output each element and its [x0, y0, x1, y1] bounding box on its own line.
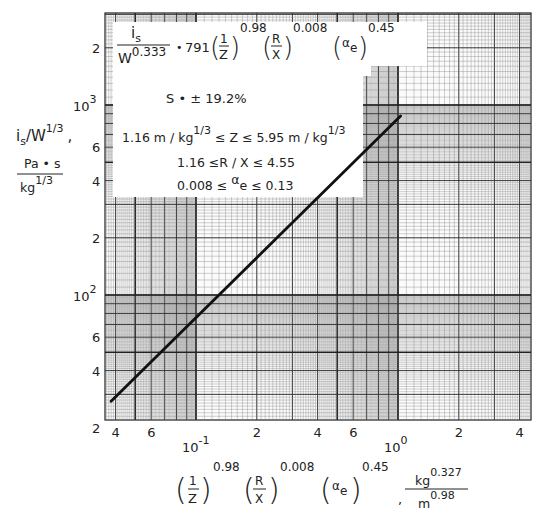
svg-text:Z: Z	[188, 491, 197, 506]
y-tick-label: 6	[92, 140, 100, 155]
x-tick-label: 4	[314, 425, 322, 440]
svg-text:): )	[200, 472, 212, 507]
x-tick-label: 4	[112, 425, 120, 440]
svg-text:0.45: 0.45	[362, 460, 389, 474]
svg-text:): )	[358, 32, 368, 62]
svg-text:0.98: 0.98	[213, 460, 240, 474]
y-tick-label: 4	[92, 364, 100, 379]
svg-text:(: (	[332, 32, 342, 62]
y-tick-label: 6	[92, 330, 100, 345]
svg-text:(: (	[262, 32, 272, 62]
x-tick-label: 4	[516, 425, 524, 440]
range-rx: 1.16 ≤R / X ≤ 4.55	[177, 155, 295, 170]
svg-text:Pa • s: Pa • s	[24, 156, 60, 171]
svg-text:Z: Z	[219, 47, 228, 62]
eq-coef: 791	[185, 40, 210, 55]
svg-text:kg0.327: kg0.327	[415, 466, 462, 488]
svg-text:(: (	[175, 472, 187, 507]
svg-text:(: (	[320, 472, 332, 507]
svg-text:αe: αe	[332, 479, 347, 498]
x-axis-label: ( 1 Z ) 0.98 ( R X ) 0.008 ( αe ) 0.45 ,…	[175, 460, 468, 511]
svg-text:): )	[230, 32, 240, 62]
eq-exp3: 0.45	[368, 21, 395, 35]
y-axis-label: is/W1/3, Pa • s kg1/3	[16, 122, 72, 195]
x-tick-label: 6	[349, 425, 357, 440]
x-axis-ticks: 4610-124610024	[112, 425, 524, 455]
y-tick-label: 103	[73, 93, 97, 114]
y-tick-label: 2	[92, 421, 100, 436]
svg-text:R: R	[255, 474, 263, 488]
x-tick-label: 6	[147, 425, 155, 440]
y-axis-ticks: 2461022461032	[73, 41, 100, 436]
svg-text:0.008: 0.008	[280, 460, 314, 474]
svg-text:): )	[268, 472, 280, 507]
y-tick-label: 102	[73, 283, 97, 304]
x-tick-label: 10-1	[182, 434, 210, 455]
y-tick-label: 2	[92, 41, 100, 56]
svg-text:1: 1	[189, 474, 197, 488]
svg-text:kg1/3: kg1/3	[20, 174, 53, 195]
eq-exp2: 0.008	[293, 21, 327, 35]
x-tick-label: 2	[253, 425, 261, 440]
svg-text:is/W1/3,: is/W1/3,	[16, 122, 72, 148]
svg-text:,: ,	[398, 492, 402, 507]
svg-text:(: (	[243, 472, 255, 507]
eq-equals: •	[176, 41, 183, 54]
svg-text:): )	[283, 32, 293, 62]
svg-text:m0.98: m0.98	[418, 489, 455, 511]
svg-text:): )	[350, 472, 362, 507]
svg-text:X: X	[272, 48, 280, 62]
x-tick-label: 2	[455, 425, 463, 440]
y-tick-label: 2	[92, 231, 100, 246]
svg-text:R: R	[272, 32, 280, 46]
svg-text:1: 1	[220, 32, 228, 46]
log-log-chart: 4610-124610024 2461022461032 is W0.333 •…	[0, 0, 539, 522]
svg-text:X: X	[255, 492, 263, 506]
x-tick-label: 100	[384, 434, 408, 455]
std-dev-text: S • ± 19.2%	[166, 91, 247, 106]
y-tick-label: 4	[92, 174, 100, 189]
